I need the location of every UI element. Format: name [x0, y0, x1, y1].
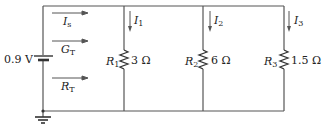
source-voltage-label: 0.9 V — [4, 54, 33, 65]
arrow-is-icon — [52, 11, 88, 15]
arrow-rt-icon — [52, 76, 88, 80]
r1-label: R1 — [106, 56, 119, 69]
resistor-r2-icon — [199, 50, 207, 69]
resistor-r3-icon — [280, 50, 288, 69]
rt-label: RT — [61, 81, 75, 94]
arrow-i3-icon — [287, 11, 291, 32]
arrow-gt-icon — [52, 39, 88, 43]
battery-icon — [34, 56, 53, 60]
r2-value: 6 Ω — [211, 55, 231, 66]
r2-label: R2 — [185, 56, 198, 69]
gt-label: GT — [61, 44, 75, 57]
node-dot — [41, 109, 44, 112]
i3-label: I3 — [294, 15, 303, 28]
arrow-i2-icon — [208, 11, 212, 32]
branch-r3 — [280, 6, 291, 111]
i1-label: I1 — [134, 15, 143, 28]
resistor-r1-icon — [120, 50, 128, 69]
r3-label: R3 — [264, 56, 277, 69]
arrow-i1-icon — [128, 11, 132, 32]
i2-label: I2 — [214, 15, 223, 28]
ground-icon — [35, 117, 51, 123]
is-label: Is — [63, 16, 71, 29]
r3-value: 1.5 Ω — [291, 55, 321, 66]
r1-value: 3 Ω — [131, 55, 151, 66]
